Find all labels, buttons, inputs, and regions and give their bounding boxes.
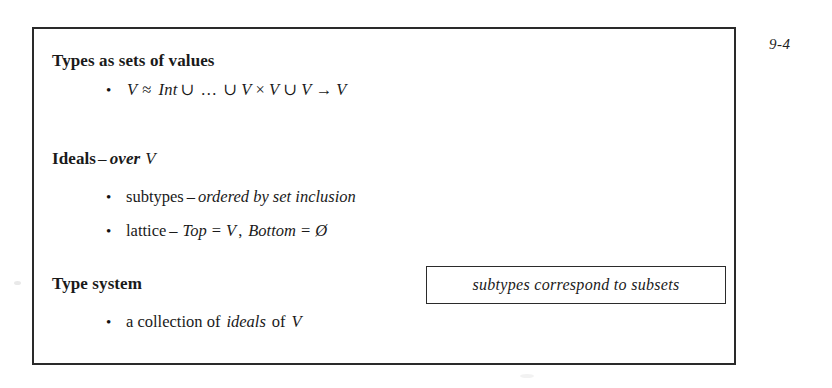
bullet-icon: •	[106, 190, 115, 205]
bullet-collection-of-ideals: • a collection ofidealsofV	[106, 312, 304, 332]
value-domain-equation: V≈Int∪…∪V×V∪V→V	[126, 80, 348, 100]
callout-box-subtypes-subsets: subtypes correspond to subsets	[426, 266, 726, 304]
dash-separator: –	[166, 221, 180, 240]
times-operator: ×	[253, 80, 269, 99]
callout-text: subtypes correspond to subsets	[472, 276, 679, 294]
heading-types-as-sets-label: Types as sets of values	[52, 51, 215, 70]
subtypes-emphasis: ordered by set inclusion	[198, 187, 356, 206]
arrow-operator: →	[313, 80, 336, 99]
heading-ideals-dash: –	[96, 149, 109, 168]
collection-lead: a collection of	[126, 312, 220, 331]
bullet-subtypes-ordered: • subtypes–ordered by set inclusion	[106, 187, 356, 207]
union-operator: ∪	[177, 80, 197, 99]
math-type-int: Int	[156, 80, 178, 99]
union-operator: ∪	[280, 80, 300, 99]
subtypes-lead: subtypes	[126, 187, 184, 206]
heading-ideals-var: V	[140, 149, 157, 168]
empty-set-symbol: Ø	[313, 221, 329, 240]
bullet-value-domain-equation: • V≈Int∪…∪V×V∪V→V	[106, 80, 348, 100]
lattice-bottom-label: Bottom	[242, 221, 298, 240]
lattice-text: lattice–Top=V,Bottom=Ø	[126, 221, 329, 241]
union-operator: ∪	[220, 80, 240, 99]
scan-artifact	[14, 281, 21, 285]
ellipsis: …	[198, 80, 221, 99]
slide-frame: Types as sets of values • V≈Int∪…∪V×V∪V→…	[32, 27, 736, 365]
heading-ideals-label: Ideals	[52, 149, 96, 168]
lattice-top-value: V	[224, 221, 238, 240]
bullet-icon: •	[106, 83, 115, 98]
heading-ideals-qualifier: over	[109, 149, 141, 168]
collection-var: V	[286, 312, 304, 331]
bullet-icon: •	[106, 315, 115, 330]
bullet-lattice-top-bottom: • lattice–Top=V,Bottom=Ø	[106, 221, 329, 241]
math-var-v: V	[300, 80, 312, 99]
scan-artifact	[520, 374, 534, 378]
collection-of-ideals-text: a collection ofidealsofV	[126, 312, 304, 332]
dash-separator: –	[184, 187, 198, 206]
equals-operator: =	[209, 221, 224, 240]
heading-type-system: Type system	[52, 274, 142, 294]
equals-operator: =	[298, 221, 313, 240]
lattice-top-label: Top	[181, 221, 209, 240]
math-var-v: V	[268, 80, 280, 99]
heading-ideals: Ideals–overV	[52, 149, 158, 169]
subtypes-ordered-text: subtypes–ordered by set inclusion	[126, 187, 356, 207]
heading-types-as-sets: Types as sets of values	[52, 51, 215, 71]
slide-content: Types as sets of values • V≈Int∪…∪V×V∪V→…	[34, 29, 734, 363]
lattice-lead: lattice	[126, 221, 166, 240]
page-number: 9-4	[769, 36, 791, 53]
collection-emphasis: ideals	[220, 312, 265, 331]
math-var-v: V	[240, 80, 252, 99]
math-var-v: V	[126, 80, 138, 99]
heading-type-system-label: Type system	[52, 274, 142, 293]
math-var-v: V	[335, 80, 347, 99]
bullet-icon: •	[106, 224, 115, 239]
collection-mid: of	[266, 312, 286, 331]
approx-operator: ≈	[138, 80, 155, 99]
